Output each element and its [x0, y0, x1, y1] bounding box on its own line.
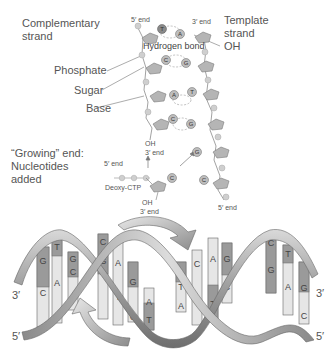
label-helix-right-5prime: 5′	[316, 330, 324, 343]
template-unpaired-bases: G C	[193, 148, 209, 185]
label-oh-lower: OH	[142, 199, 153, 207]
svg-text:C: C	[100, 237, 107, 247]
label-sugar: Sugar	[74, 84, 103, 97]
svg-text:C: C	[70, 267, 77, 277]
svg-text:C: C	[40, 288, 47, 298]
svg-text:A: A	[285, 282, 291, 292]
svg-text:A: A	[210, 254, 216, 264]
label-oh-upper: OH	[145, 140, 156, 148]
svg-text:G: G	[189, 121, 194, 127]
label-hydrogen-bond: Hydrogen bond	[143, 40, 205, 52]
label-three-end-upper: 3′ end	[145, 149, 164, 157]
label-deoxy-ctp: Deoxy-CTP	[105, 184, 141, 192]
label-three-end-top: 3′ end	[192, 18, 211, 26]
svg-text:C: C	[301, 311, 308, 321]
svg-text:C: C	[164, 57, 169, 63]
label-helix-right-3prime: 3′	[316, 287, 324, 300]
svg-text:G: G	[195, 149, 200, 155]
svg-text:G: G	[184, 60, 189, 66]
svg-text:C: C	[170, 175, 175, 181]
svg-text:A: A	[178, 301, 184, 311]
svg-text:T: T	[190, 89, 194, 95]
svg-text:G: G	[39, 256, 46, 266]
base-pair-4: C G	[169, 115, 196, 129]
label-template-strand: Template strand	[224, 14, 269, 40]
svg-text:T: T	[160, 26, 164, 32]
svg-text:G: G	[300, 283, 307, 293]
svg-text:T: T	[285, 249, 291, 259]
label-complementary-strand: Complementary strand	[22, 17, 100, 43]
label-base: Base	[86, 102, 111, 115]
svg-text:G: G	[129, 277, 136, 287]
label-five-end-incoming: 5′ end	[104, 160, 123, 168]
label-five-end-template-bottom: 5′ end	[218, 204, 237, 212]
svg-text:A: A	[172, 92, 176, 98]
svg-text:T: T	[54, 242, 60, 252]
label-five-end-top: 5′ end	[131, 16, 150, 24]
svg-text:T: T	[146, 315, 152, 325]
svg-text:C: C	[194, 259, 201, 269]
template-backbone	[203, 34, 224, 200]
label-template-oh: OH	[224, 40, 241, 53]
svg-text:G: G	[69, 254, 76, 264]
svg-text:A: A	[54, 278, 60, 288]
base-pair-1: T A	[158, 25, 185, 39]
base-pair-3: A T	[170, 88, 197, 100]
svg-text:G: G	[223, 254, 230, 264]
svg-text:C: C	[202, 177, 207, 183]
base-pair-2: C G	[162, 56, 191, 68]
label-phosphate: Phosphate	[54, 64, 107, 77]
svg-text:C: C	[171, 116, 176, 122]
svg-text:A: A	[178, 31, 182, 37]
label-helix-left-3prime: 3′	[12, 289, 20, 302]
label-growing-end: “Growing” end: Nucleotides added	[11, 147, 84, 186]
svg-text:A: A	[115, 258, 121, 268]
label-three-end-lower: 3′ end	[140, 208, 159, 216]
svg-text:A: A	[146, 297, 152, 307]
svg-text:G: G	[267, 265, 274, 275]
label-helix-left-5prime: 5′	[12, 330, 20, 343]
